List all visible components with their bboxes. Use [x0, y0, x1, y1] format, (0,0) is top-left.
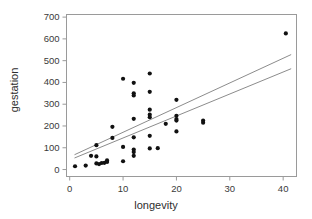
data-point: [73, 164, 77, 168]
data-point: [110, 125, 114, 129]
data-point: [89, 154, 93, 158]
data-point: [148, 71, 152, 75]
regression-lines: [75, 55, 292, 158]
data-point: [148, 90, 152, 94]
x-tick-label: 20: [161, 184, 191, 194]
data-point: [132, 154, 136, 158]
y-tick-label: 300: [44, 99, 60, 109]
plot-border: [67, 15, 297, 177]
y-tick-label: 0: [54, 165, 59, 175]
data-point: [174, 118, 178, 122]
data-point: [105, 160, 109, 164]
y-tick-label: 600: [44, 34, 60, 44]
data-point: [132, 150, 136, 154]
data-point: [121, 77, 125, 81]
data-point: [148, 146, 152, 150]
data-point: [132, 117, 136, 121]
x-tick-label: 30: [215, 184, 245, 194]
data-point: [132, 135, 136, 139]
y-tick-label: 200: [44, 121, 60, 131]
data-point: [94, 154, 98, 158]
y-tick-label: 400: [44, 77, 60, 87]
y-axis-title: gestation: [8, 45, 20, 135]
data-point: [148, 115, 152, 119]
data-point: [121, 145, 125, 149]
data-point: [174, 129, 178, 133]
line-upper: [75, 55, 292, 155]
x-axis-title: longevity: [0, 199, 312, 211]
line-lower: [75, 69, 292, 158]
x-tick-label: 40: [268, 184, 298, 194]
data-point: [164, 122, 168, 126]
data-point: [121, 159, 125, 163]
scatter-chart: 0100200300400500600700 010203040 gestati…: [0, 0, 312, 219]
plot-frame: [67, 15, 297, 177]
y-tick-label: 500: [44, 56, 60, 66]
x-tick-label: 10: [108, 184, 138, 194]
data-point: [174, 98, 178, 102]
data-point: [132, 93, 136, 97]
data-point: [284, 31, 288, 35]
data-point: [132, 81, 136, 85]
data-points: [73, 31, 288, 168]
data-point: [84, 164, 88, 168]
y-tick-label: 100: [44, 143, 60, 153]
data-point: [156, 146, 160, 150]
x-tick-label: 0: [55, 184, 85, 194]
data-point: [201, 121, 205, 125]
data-point: [94, 143, 98, 147]
data-point: [110, 136, 114, 140]
data-point: [148, 134, 152, 138]
data-point: [148, 108, 152, 112]
y-tick-label: 700: [44, 12, 60, 22]
